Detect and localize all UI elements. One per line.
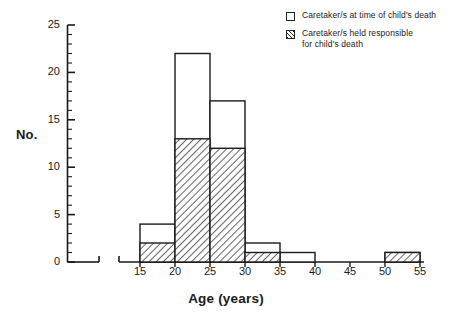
legend-label-responsible: Caretaker/s held responsible for child's… bbox=[302, 28, 413, 49]
x-tick-label-55: 55 bbox=[408, 265, 432, 277]
bar-hatched-30-35 bbox=[245, 253, 280, 263]
y-tick-label-0: 0 bbox=[38, 255, 60, 267]
open-square-icon bbox=[286, 12, 295, 21]
x-tick-label-25: 25 bbox=[198, 265, 222, 277]
chart-legend: Caretaker/s at time of child's death Car… bbox=[286, 10, 452, 56]
y-tick-label-25: 25 bbox=[38, 18, 60, 30]
bar-hatched-25-30 bbox=[210, 148, 245, 262]
x-axis-title: Age (years) bbox=[0, 291, 452, 306]
legend-item-responsible: Caretaker/s held responsible for child's… bbox=[286, 28, 452, 49]
y-axis-title: No. bbox=[16, 127, 38, 142]
bar-total-35-40 bbox=[280, 253, 315, 263]
y-tick-label-15: 15 bbox=[38, 113, 60, 125]
hatched-square-icon bbox=[286, 30, 295, 39]
x-tick-label-50: 50 bbox=[373, 265, 397, 277]
x-tick-label-30: 30 bbox=[233, 265, 257, 277]
x-tick-label-15: 15 bbox=[128, 265, 152, 277]
legend-item-total: Caretaker/s at time of child's death bbox=[286, 10, 452, 21]
histogram-figure: 0 5 10 15 20 25 15 20 25 30 35 40 45 50 … bbox=[0, 0, 452, 321]
legend-label-total: Caretaker/s at time of child's death bbox=[302, 10, 436, 21]
y-tick-label-10: 10 bbox=[38, 160, 60, 172]
y-major-ticks bbox=[68, 25, 76, 262]
x-tick-label-40: 40 bbox=[303, 265, 327, 277]
y-tick-label-20: 20 bbox=[38, 65, 60, 77]
bar-hatched-50-55 bbox=[385, 253, 420, 263]
x-tick-label-20: 20 bbox=[163, 265, 187, 277]
x-tick-label-35: 35 bbox=[268, 265, 292, 277]
bar-hatched-15-20 bbox=[140, 243, 175, 262]
y-tick-label-5: 5 bbox=[38, 208, 60, 220]
x-tick-label-45: 45 bbox=[338, 265, 362, 277]
bar-hatched-20-25 bbox=[175, 139, 210, 262]
